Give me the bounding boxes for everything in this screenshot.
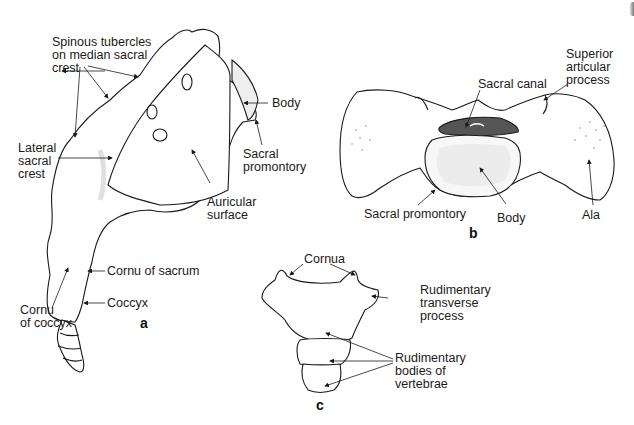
label-ala: Ala <box>582 209 600 222</box>
sacrum-superior-drawing <box>340 90 614 200</box>
label-body-b: Body <box>497 212 526 225</box>
label-sacral-promontory-b: Sacral promontory <box>364 208 466 221</box>
label-rudimentary-bodies: Rudimentary bodies of vertebrae <box>395 352 466 391</box>
label-lateral-sacral-crest: Lateral sacral crest <box>18 142 56 181</box>
panel-letter-c: c <box>316 397 324 413</box>
panel-letter-a: a <box>140 315 148 331</box>
label-body-a: Body <box>272 97 301 110</box>
label-sacral-canal: Sacral canal <box>478 78 547 91</box>
label-rudimentary-transverse-process: Rudimentary transverse process <box>420 284 491 323</box>
label-cornu-of-sacrum: Cornu of sacrum <box>107 265 199 278</box>
label-coccyx: Coccyx <box>107 297 148 310</box>
label-cornu-of-coccyx: Cornu of coccyx <box>20 304 72 330</box>
page-edge-shadow <box>630 2 634 16</box>
label-spinous-tubercles: Spinous tubercles on median sacral crest <box>52 36 151 75</box>
label-superior-articular-process: Superior articular process <box>566 48 613 87</box>
label-cornua: Cornua <box>304 253 345 266</box>
label-sacral-promontory-a: Sacral promontory <box>243 148 306 174</box>
label-auricular-surface: Auricular surface <box>207 196 256 222</box>
panel-letter-b: b <box>469 225 478 241</box>
figure-sacrum-coccyx: Spinous tubercles on median sacral crest… <box>0 0 634 425</box>
